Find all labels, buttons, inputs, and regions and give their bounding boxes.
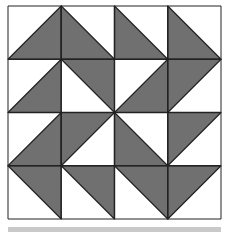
quilt-block-diagram: [0, 0, 229, 224]
bottom-bar: [8, 227, 221, 232]
